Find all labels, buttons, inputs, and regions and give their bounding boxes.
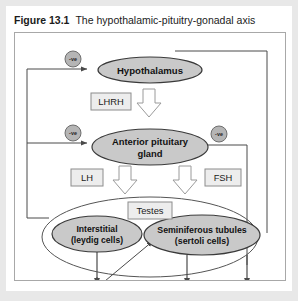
- node-interstitial-leydig[interactable]: Interstitial (leydig cells): [52, 216, 142, 252]
- block-arrow-lh: [113, 166, 137, 194]
- node-anterior-pituitary[interactable]: Anterior pituitary gland: [92, 129, 208, 165]
- box-fsh[interactable]: FSH: [205, 169, 241, 186]
- box-testes[interactable]: Testes: [128, 202, 172, 219]
- anterior-pituitary-label-line1: Anterior pituitary: [112, 136, 189, 147]
- block-arrow-fsh: [173, 166, 197, 194]
- interstitial-label-line2: (leydig cells): [71, 235, 123, 245]
- block-arrow-lhrh: [137, 89, 161, 117]
- box-lhrh[interactable]: LHRH: [91, 93, 131, 110]
- node-seminiferous-sertoli[interactable]: Seminiferous tubules (sertoli cells): [144, 215, 260, 255]
- node-hypothalamus[interactable]: Hypothalamus: [98, 57, 202, 83]
- testes-label: Testes: [136, 205, 163, 216]
- feedback-marker-pituitary-left-label: -ve: [69, 130, 77, 136]
- hypothalamus-label: Hypothalamus: [117, 65, 183, 76]
- feedback-marker-pituitary-right-label: -ve: [215, 131, 223, 137]
- diagram-panel: Hypothalamus Anterior pituitary gland In…: [14, 32, 286, 281]
- interstitial-label-line1: Interstitial: [76, 224, 117, 234]
- anterior-pituitary-label-line2: gland: [138, 148, 163, 159]
- lhrh-label: LHRH: [98, 96, 124, 107]
- lh-label: LH: [81, 172, 93, 183]
- feedback-marker-pituitary-right: -ve: [211, 126, 227, 142]
- seminiferous-label-line2: (sertoli cells): [175, 236, 229, 246]
- feedback-marker-hypothalamus: -ve: [65, 51, 81, 67]
- fsh-label: FSH: [214, 172, 233, 183]
- figure-caption: Figure 13.1The hypothalamic-pituitry-gon…: [14, 14, 286, 30]
- seminiferous-label-line1: Seminiferous tubules: [157, 225, 247, 235]
- feedback-marker-hypothalamus-label: -ve: [69, 56, 77, 62]
- figure-caption-text: The hypothalamic-pituitry-gonadal axis: [75, 14, 255, 26]
- figure-number: Figure 13.1: [14, 14, 69, 26]
- feedback-marker-pituitary-left: -ve: [65, 125, 81, 141]
- hpg-axis-diagram: Hypothalamus Anterior pituitary gland In…: [15, 33, 285, 280]
- figure-container: Figure 13.1The hypothalamic-pituitry-gon…: [6, 6, 292, 291]
- box-lh[interactable]: LH: [71, 169, 103, 186]
